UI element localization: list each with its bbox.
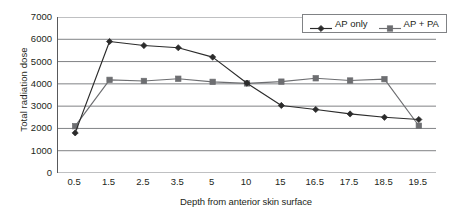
data-point-diamond <box>416 116 422 122</box>
x-tick-label: 10 <box>241 176 252 187</box>
series-line <box>75 42 419 133</box>
y-tick-label: 1000 <box>18 146 52 156</box>
x-axis-title: Depth from anterior skin surface <box>57 196 435 207</box>
data-point-diamond <box>347 111 353 117</box>
y-tick-label: 3000 <box>18 101 52 111</box>
radiation-dose-line-chart: Total radiation dose 0100020003000400050… <box>0 0 451 219</box>
data-point-square <box>141 78 146 83</box>
series-ap-only <box>72 38 422 136</box>
data-point-square <box>107 77 112 82</box>
data-point-square <box>279 79 284 84</box>
y-tick-label: 7000 <box>18 12 52 22</box>
data-point-square <box>387 26 392 31</box>
x-tick-label: 18.5 <box>374 176 393 187</box>
x-tick-label: 5 <box>209 176 214 187</box>
data-point-diamond <box>278 102 284 108</box>
x-tick-label: 17.5 <box>340 176 359 187</box>
data-point-diamond <box>313 106 319 112</box>
data-point-diamond <box>72 130 78 136</box>
legend-marker-square-icon <box>379 19 401 28</box>
legend-entry: AP + PA <box>379 19 439 29</box>
chart-legend: AP onlyAP + PA <box>302 14 447 33</box>
plot-area <box>57 17 435 173</box>
plot-svg <box>58 17 436 173</box>
data-point-diamond <box>141 42 147 48</box>
y-axis-tick-labels: 01000200030004000500060007000 <box>18 17 52 173</box>
data-point-square <box>382 76 387 81</box>
y-tick-label: 6000 <box>18 35 52 45</box>
x-tick-label: 3.5 <box>171 176 184 187</box>
data-point-diamond <box>175 45 181 51</box>
legend-entry: AP only <box>310 19 368 29</box>
data-point-square <box>176 76 181 81</box>
x-tick-label: 16.5 <box>305 176 324 187</box>
y-tick-label: 0 <box>18 168 52 178</box>
legend-label: AP + PA <box>404 19 439 29</box>
x-tick-label: 19.5 <box>409 176 428 187</box>
data-point-square <box>416 123 421 128</box>
x-tick-label: 2.5 <box>136 176 149 187</box>
y-tick-label: 2000 <box>18 124 52 134</box>
y-tick-label: 4000 <box>18 79 52 89</box>
x-tick-label: 0.5 <box>68 176 81 187</box>
data-point-square <box>313 76 318 81</box>
legend-label: AP only <box>335 19 368 29</box>
data-point-square <box>210 79 215 84</box>
gridlines <box>58 17 436 173</box>
x-axis-tick-labels: 0.51.52.53.55101516.517.518.519.5 <box>57 176 435 190</box>
data-point-diamond <box>318 25 324 31</box>
y-tick-label: 5000 <box>18 57 52 67</box>
legend-marker-diamond-icon <box>310 19 332 28</box>
data-point-square <box>347 78 352 83</box>
x-tick-label: 1.5 <box>102 176 115 187</box>
x-tick-label: 15 <box>275 176 286 187</box>
data-point-diamond <box>381 114 387 120</box>
